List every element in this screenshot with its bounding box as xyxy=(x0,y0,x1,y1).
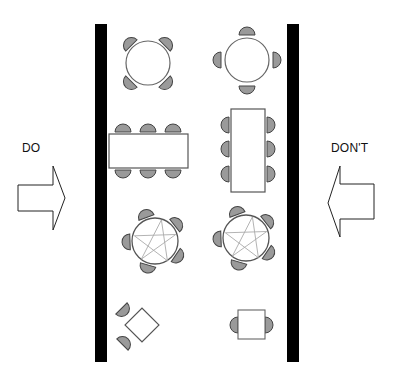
do-round-table-group xyxy=(120,34,176,93)
chair xyxy=(140,124,156,132)
dont-square-table-group xyxy=(230,310,273,339)
chair xyxy=(213,231,222,247)
square-table xyxy=(238,310,265,339)
dont-long-table-group xyxy=(221,109,275,192)
do-arrow-icon xyxy=(18,166,65,230)
dont-round-table-group xyxy=(213,27,281,94)
do-pentagon-table-group xyxy=(122,207,187,275)
dont-arrow-icon xyxy=(328,166,374,237)
chair xyxy=(267,166,275,182)
left-wall xyxy=(95,24,107,362)
pentagon-table xyxy=(132,218,178,264)
do-diamond-table-group xyxy=(116,303,159,350)
long-table xyxy=(231,109,265,192)
chair xyxy=(239,27,255,35)
chair xyxy=(265,317,273,333)
pentagon-table xyxy=(223,215,269,261)
chair xyxy=(221,117,229,133)
chair xyxy=(213,52,221,68)
chair xyxy=(165,124,181,132)
chair xyxy=(221,141,229,157)
chair xyxy=(229,260,247,272)
chair xyxy=(115,170,131,178)
seating-diagram xyxy=(0,0,396,384)
chair xyxy=(116,303,133,320)
do-long-table-group xyxy=(109,124,188,178)
chair xyxy=(239,86,255,94)
diamond-table xyxy=(125,308,159,342)
long-table xyxy=(109,134,188,168)
chair xyxy=(115,124,131,132)
round-table xyxy=(225,38,269,82)
chair xyxy=(267,141,275,157)
chair xyxy=(140,170,156,178)
chair xyxy=(117,333,134,350)
chair xyxy=(267,117,275,133)
chair xyxy=(138,263,156,275)
right-wall xyxy=(287,24,299,362)
chair xyxy=(122,234,131,250)
chair xyxy=(165,170,181,178)
round-table xyxy=(126,41,170,85)
dont-pentagon-table-group xyxy=(213,204,278,272)
chair xyxy=(230,317,238,333)
chair xyxy=(273,52,281,68)
chair xyxy=(221,166,229,182)
